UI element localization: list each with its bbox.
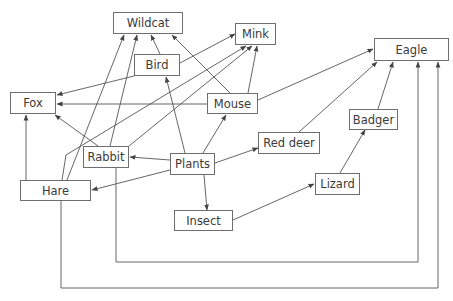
arrow-rabbit-to-wildcat [110,35,137,146]
arrow-insect-to-lizard [233,184,314,220]
arrow-bird-to-wildcat [151,35,160,54]
node-bird: Bird [134,54,180,76]
arrow-plants-to-red_deer [215,148,258,163]
arrow-mouse-to-mink [248,46,257,93]
node-plants: Plants [170,153,215,175]
node-mink: Mink [235,23,276,45]
arrow-rabbit-to-eagle [116,62,418,262]
node-wildcat: Wildcat [113,12,183,34]
node-red-deer: Red deer [258,132,320,154]
node-label: Badger [353,113,394,127]
food-web-diagram: Wildcat Mink Eagle Bird Fox Mouse Badger… [0,0,453,301]
node-label: Fox [23,96,43,110]
arrow-rabbit-to-fox [55,115,98,146]
arrow-plants-to-rabbit [130,157,170,160]
arrow-plants-to-insect [204,175,207,210]
node-label: Mouse [214,97,251,111]
arrow-lizard-to-badger [340,130,365,173]
node-hare: Hare [20,180,91,201]
arrow-mouse-to-wildcat [172,35,230,93]
node-insect: Insect [174,210,233,231]
node-label: Lizard [320,177,355,191]
node-eagle: Eagle [374,38,449,61]
node-mouse: Mouse [207,93,258,114]
arrow-mouse-to-eagle [258,49,373,100]
node-label: Rabbit [87,150,124,164]
node-fox: Fox [10,92,56,114]
node-label: Red deer [263,136,315,150]
arrow-plants-to-hare [92,170,170,190]
node-rabbit: Rabbit [83,146,129,168]
node-lizard: Lizard [315,173,360,195]
node-label: Hare [42,184,69,198]
arrow-bird-to-fox [57,76,134,95]
node-label: Mink [242,27,269,41]
node-label: Eagle [396,43,428,57]
arrow-badger-to-eagle [378,62,393,109]
node-badger: Badger [349,109,398,130]
node-label: Insect [186,214,221,228]
arrow-bird-to-mink [180,34,235,63]
node-label: Plants [175,157,210,171]
arrow-plants-to-mouse [203,115,226,153]
node-label: Bird [146,58,169,72]
node-label: Wildcat [127,16,170,30]
